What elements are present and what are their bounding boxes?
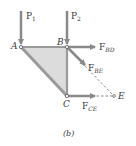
pin-e — [113, 95, 116, 98]
node-label-b: B — [56, 37, 64, 47]
force-label-p2: P2 — [71, 11, 81, 22]
truss-free-body-diagram: A B C E P1 P2 FBD FBE FCE (b) — [0, 0, 136, 146]
pin-c — [65, 94, 68, 97]
pin-b — [65, 45, 68, 48]
node-label-a: A — [10, 41, 18, 51]
force-label-fce: FCE — [82, 101, 98, 112]
force-label-fbd: FBD — [99, 42, 115, 53]
figure-caption: (b) — [63, 129, 74, 138]
node-label-c: C — [63, 99, 70, 109]
force-arrow-fbe — [68, 48, 85, 65]
pin-a — [19, 45, 22, 48]
force-label-p1: P1 — [26, 11, 36, 22]
node-label-e: E — [117, 91, 125, 101]
force-label-fbe: FBE — [88, 63, 104, 74]
